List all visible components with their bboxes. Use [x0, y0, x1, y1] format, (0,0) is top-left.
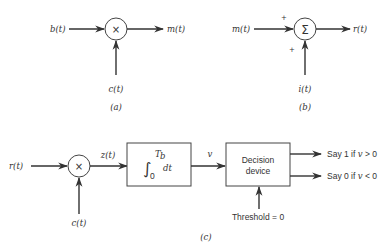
- decision-device-line1: Decision: [242, 155, 275, 165]
- label-i-t: i(t): [299, 84, 312, 94]
- integral-upper-limit-sub: b: [160, 151, 165, 161]
- label-c-t-c: c(t): [72, 218, 87, 228]
- diagram-a: b(t) × m(t) c(t) (a): [50, 18, 185, 112]
- label-r-t-c: r(t): [9, 161, 23, 171]
- label-m-t: m(t): [167, 24, 185, 34]
- label-c-t-a: c(t): [109, 84, 124, 94]
- output-label-0: Say 0 if v < 0: [327, 171, 377, 181]
- plus-sign-left: +: [281, 14, 287, 22]
- label-v: v: [208, 149, 213, 159]
- threshold-label: Threshold = 0: [232, 212, 284, 222]
- multiply-icon: ×: [75, 161, 83, 172]
- diagram: b(t) × m(t) c(t) (a) m(t) + Σ r(t) + i(t…: [0, 0, 391, 252]
- diagram-b: m(t) + Σ r(t) + i(t) (b): [232, 14, 367, 112]
- plus-sign-bottom: +: [289, 46, 295, 54]
- integral-differential: dt: [163, 163, 172, 173]
- caption-c: (c): [200, 232, 211, 242]
- label-z-t: z(t): [100, 150, 116, 160]
- output-label-1: Say 1 if v > 0: [327, 149, 377, 159]
- label-m-t-b: m(t): [232, 24, 250, 34]
- caption-b: (b): [299, 102, 311, 112]
- diagram-c: r(t) × z(t) c(t) ∫ 0 T b dt v Decision d…: [9, 143, 377, 242]
- caption-a: (a): [110, 102, 122, 112]
- multiply-icon: ×: [112, 24, 120, 35]
- label-b-t: b(t): [50, 24, 66, 34]
- label-r-t: r(t): [353, 24, 367, 34]
- sigma-icon: Σ: [301, 23, 309, 37]
- decision-device-line2: device: [246, 166, 271, 176]
- integral-lower-limit: 0: [150, 171, 155, 181]
